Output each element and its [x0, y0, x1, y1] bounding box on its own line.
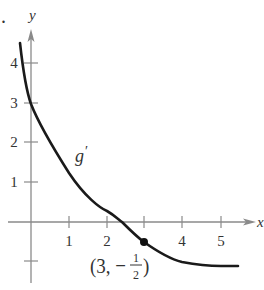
point-label: (3, − 1 2 )	[90, 251, 149, 282]
y-tick-labels: 4 3 2 1	[10, 55, 18, 190]
svg-text:4: 4	[10, 55, 18, 71]
svg-text:): )	[143, 253, 149, 278]
svg-text:′: ′	[85, 144, 88, 159]
problem-marker: .	[1, 5, 6, 27]
svg-text:2: 2	[133, 268, 139, 282]
svg-text:4: 4	[178, 233, 186, 249]
svg-text:g: g	[75, 146, 84, 166]
y-axis-label: y	[27, 7, 36, 23]
svg-text:1: 1	[133, 251, 139, 265]
svg-text:3: 3	[10, 95, 18, 111]
point-marker	[140, 238, 148, 246]
curve-label: g ′	[75, 144, 88, 166]
curve-g-prime	[20, 43, 238, 266]
svg-text:1: 1	[65, 233, 73, 249]
svg-text:2: 2	[103, 233, 111, 249]
axes	[8, 38, 248, 283]
graph-g-prime: . 1 2 4 5 4 3 2 1 y x g	[0, 0, 264, 290]
svg-text:(3, −: (3, −	[90, 253, 126, 278]
svg-text:5: 5	[217, 233, 225, 249]
x-axis-label: x	[256, 214, 264, 230]
svg-text:1: 1	[10, 174, 18, 190]
svg-text:2: 2	[10, 134, 18, 150]
